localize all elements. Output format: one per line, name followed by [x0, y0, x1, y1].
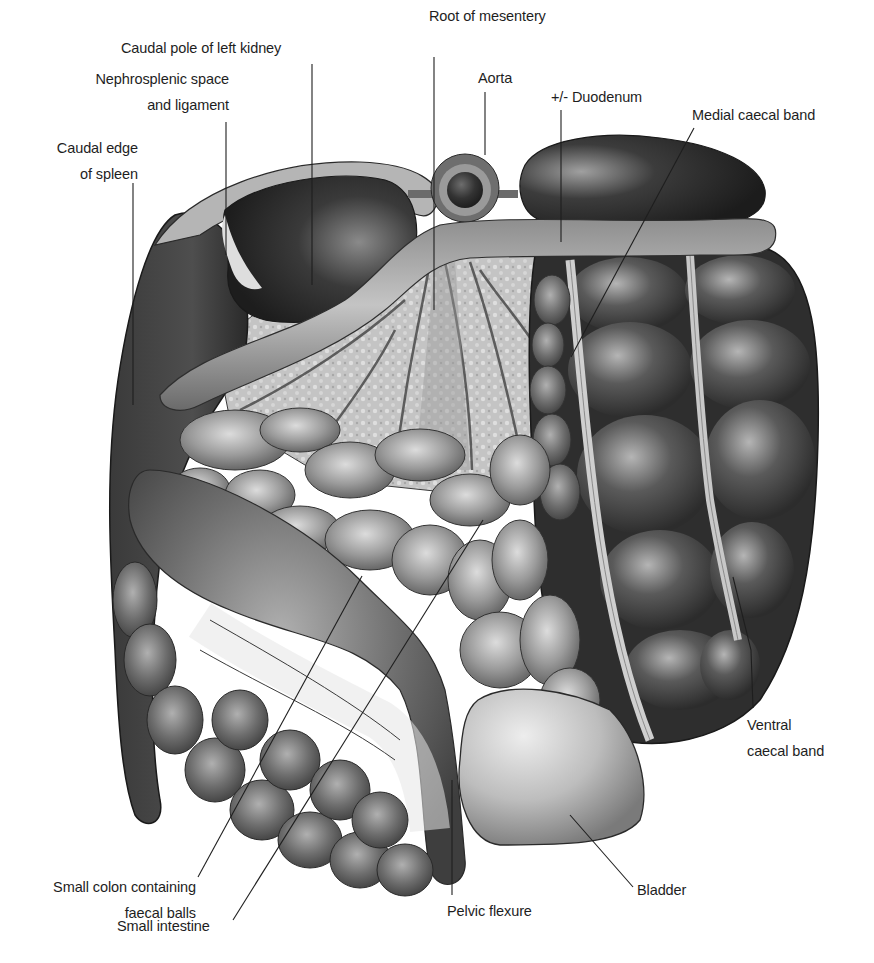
label-pelvic-flexure: Pelvic flexure	[447, 898, 532, 924]
label-caudal-pole-left-kidney: Caudal pole of left kidney	[121, 35, 281, 61]
label-caudal-edge-spleen: Caudal edge of spleen	[30, 135, 138, 187]
label-medial-caecal-band: Medial caecal band	[692, 102, 815, 128]
label-nephrosplenic-space: Nephrosplenic space and ligament	[60, 66, 229, 118]
right-kidney	[520, 135, 765, 226]
label-aorta: Aorta	[478, 65, 512, 91]
anatomy-figure: Caudal pole of left kidney Nephrosplenic…	[0, 0, 874, 963]
label-bladder: Bladder	[637, 877, 686, 903]
label-ventral-caecal-band: Ventral caecal band	[747, 712, 824, 764]
label-duodenum: +/- Duodenum	[551, 84, 642, 110]
label-small-colon: Small colon containing faecal balls	[10, 874, 196, 926]
label-root-of-mesentery: Root of mesentery	[429, 3, 546, 29]
